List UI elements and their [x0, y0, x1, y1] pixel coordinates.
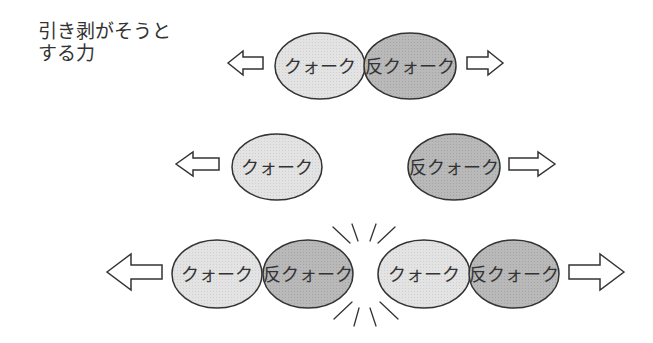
left-arrow-icon [107, 254, 162, 290]
antiquark-label: 反クォーク [469, 264, 559, 285]
quark-label: クォーク [284, 56, 356, 77]
right-arrow-icon [569, 254, 624, 290]
quark-label: クォーク [388, 264, 460, 285]
row-bottom: クォーク 反クォーク クォーク 反クォーク [107, 224, 624, 326]
antiquark-label: 反クォーク [409, 157, 499, 178]
antiquark-label: 反クォーク [365, 56, 455, 77]
left-arrow-icon [176, 152, 219, 176]
right-arrow-icon [467, 51, 503, 75]
quark-label: クォーク [241, 157, 313, 178]
antiquark-label: 反クォーク [263, 264, 353, 285]
right-arrow-icon [509, 152, 555, 176]
row-middle: クォーク 反クォーク [176, 134, 555, 200]
quark-separation-diagram: クォーク 反クォーク クォーク 反クォーク クォーク 反クォーク クォーク [0, 0, 653, 343]
row-top: クォーク 反クォーク [228, 33, 503, 99]
quark-label: クォーク [181, 264, 253, 285]
left-arrow-icon [228, 51, 263, 75]
